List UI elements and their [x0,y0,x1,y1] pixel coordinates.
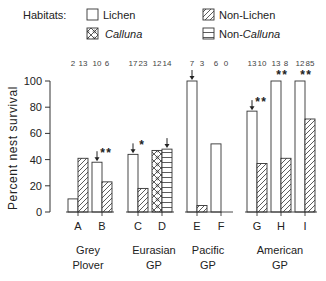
sample-size: 17 [129,59,138,68]
sample-size: 6 [105,59,110,68]
bar-pair-a [68,158,88,212]
sample-size: 23 [139,59,148,68]
significance-marker: * * [300,68,311,82]
sample-size: 13 [79,59,88,68]
bar-pair-d [152,138,172,212]
bar-pair-b: * * [92,146,112,212]
group-label-american: AmericanGP [257,244,303,271]
y-tick-label: 0 [36,206,42,218]
bar-pair-h: * * [271,68,291,212]
category-label-a: A [74,220,82,232]
category-label-g: G [253,220,262,232]
sample-size: 13 [248,59,257,68]
group-label-eurasian: EurasianGP [132,244,175,271]
calluna-swatch-icon [87,28,98,39]
group-label-grey: GreyPlover [72,244,104,271]
group-labels: GreyPloverEurasianGPPacificGPAmericanGP [72,244,303,271]
category-label-h: H [277,220,285,232]
arrow-down-icon [250,100,255,110]
significance-marker: * [139,138,144,152]
legend-title: Habitats: [23,9,66,21]
sample-size: 6 [214,59,219,68]
non-calluna-swatch-icon [203,28,214,39]
nest-survival-chart: Habitats: Lichen Calluna Non-Lichen Non-… [0,0,326,281]
sample-size: 12 [296,59,305,68]
bar-e-lichen [187,81,197,212]
significance-marker: * * [100,146,111,160]
category-label-d: D [158,220,166,232]
category-label-c: C [134,220,142,232]
y-tick-label: 20 [30,180,42,192]
sample-size: 85 [306,59,315,68]
sample-size: 14 [163,59,172,68]
sample-size: 12 [153,59,162,68]
sample-size: 10 [93,59,102,68]
arrow-down-icon [190,70,195,80]
significance-marker: * * [276,68,287,82]
bar-b-non-lichen [102,182,112,212]
sample-size: 7 [190,59,195,68]
sample-size-labels: 21310617231214736013101381285 [71,59,315,68]
sample-size: 2 [71,59,76,68]
bar-pair-e [187,70,207,212]
category-label-b: B [98,220,105,232]
y-tick-label: 40 [30,154,42,166]
legend-item-non-lichen: Non-Lichen [203,9,275,21]
arrow-down-icon [131,143,136,153]
category-label-i: I [303,220,306,232]
sample-size: 3 [200,59,205,68]
arrow-down-icon [165,138,170,148]
legend-item-calluna: Calluna [87,28,142,40]
bar-c-non-lichen [138,188,148,212]
legend-item-non-calluna: Non-Calluna [203,28,280,40]
legend-label-calluna: Calluna [105,28,142,40]
bar-c-lichen [128,154,138,212]
category-label-e: E [193,220,200,232]
bar-h-lichen [271,81,281,212]
legend-label-lichen: Lichen [103,9,135,21]
bar-b-lichen [92,162,102,212]
bars: * *** ** ** * [68,68,315,212]
non-lichen-swatch-icon [203,9,214,20]
sample-size: 0 [224,59,229,68]
sample-size: 8 [284,59,289,68]
y-tick-label: 60 [30,127,42,139]
category-label-f: F [218,220,225,232]
y-tick-label: 100 [24,75,42,87]
y-axis: 020406080100 [24,75,50,218]
bar-pair-g: * * [247,95,267,212]
bar-e-non-lichen [197,205,207,212]
y-axis-label: Percent nest survival [6,86,20,210]
legend-label-non-calluna: Non-Calluna [219,28,280,40]
sample-size: 10 [258,59,267,68]
bar-pair-c: * [128,138,148,212]
bar-i-non-lichen [305,119,315,212]
bar-pair-i: * * [295,68,315,212]
arrow-down-icon [95,151,100,161]
bar-pair-f [211,144,221,212]
bar-i-lichen [295,81,305,212]
bar-f-lichen [211,144,221,212]
legend: Habitats: Lichen Calluna Non-Lichen Non-… [23,9,280,40]
legend-label-non-lichen: Non-Lichen [219,9,275,21]
bar-d-calluna [152,150,162,212]
bar-g-lichen [247,111,257,212]
category-labels: ABCDEFGHI [66,212,317,232]
significance-marker: * * [255,95,266,109]
sample-size: 13 [272,59,281,68]
group-label-pacific: PacificGP [192,244,225,271]
bar-g-non-lichen [257,164,267,212]
legend-item-lichen: Lichen [87,9,135,21]
bar-h-non-lichen [281,158,291,212]
lichen-swatch-icon [87,9,98,20]
bar-a-lichen [68,199,78,212]
y-tick-label: 80 [30,101,42,113]
bar-a-non-lichen [78,158,88,212]
bar-d-non-calluna [162,149,172,212]
